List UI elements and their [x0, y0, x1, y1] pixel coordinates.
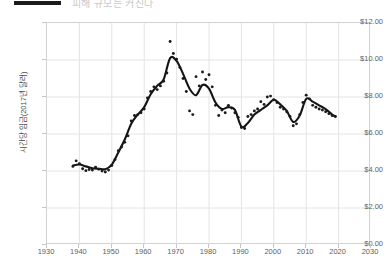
data-point — [263, 103, 266, 106]
x-axis-tick — [78, 244, 79, 248]
data-point — [169, 40, 172, 43]
data-point — [75, 159, 78, 162]
y-axis-tick-label: $10.00 — [341, 54, 383, 63]
data-point — [136, 113, 139, 116]
x-axis-tick — [143, 244, 144, 248]
y-axis-tick-label: $8.00 — [341, 91, 383, 100]
x-axis-tick — [305, 244, 306, 248]
data-point — [130, 120, 133, 123]
data-point — [133, 114, 136, 117]
x-axis-tick — [208, 244, 209, 248]
x-axis-tick — [273, 244, 274, 248]
header-accent-bar — [14, 1, 61, 5]
y-axis-title: 시간당 임금(2017년 달러) — [17, 43, 28, 183]
data-point — [233, 111, 236, 114]
data-point — [81, 167, 84, 170]
data-point — [237, 116, 240, 119]
data-point — [104, 170, 107, 173]
data-point — [149, 90, 152, 93]
y-axis-tick-label: $4.00 — [341, 165, 383, 174]
y-axis-tick — [42, 59, 46, 60]
gridlines — [47, 23, 371, 245]
data-point — [217, 114, 220, 117]
data-point — [88, 168, 91, 171]
data-point — [276, 101, 279, 104]
data-point — [208, 73, 211, 76]
x-axis-tick — [240, 244, 241, 248]
data-point — [114, 158, 117, 161]
data-point — [298, 113, 301, 116]
x-axis-tick-label: 2030 — [350, 247, 388, 256]
data-point — [195, 75, 198, 78]
chart-container: 시간당 임금(2017년 달러) $0.00$2.00$4.00$6.00$8.… — [0, 11, 383, 261]
data-point — [324, 110, 327, 113]
data-point — [259, 100, 262, 103]
x-axis-tick — [111, 244, 112, 248]
data-point — [211, 85, 214, 88]
data-point — [250, 113, 253, 116]
data-point — [295, 122, 298, 125]
data-point — [91, 169, 94, 172]
data-point — [285, 110, 288, 113]
data-point — [272, 98, 275, 101]
data-point — [182, 77, 185, 80]
data-point — [101, 170, 104, 173]
data-point — [279, 106, 282, 109]
y-axis-tick — [42, 96, 46, 97]
data-point — [110, 164, 113, 167]
data-point — [224, 111, 227, 114]
data-point — [165, 72, 168, 75]
y-axis-tick — [42, 22, 46, 23]
data-point — [308, 97, 311, 100]
data-point — [159, 84, 162, 87]
data-point — [204, 78, 207, 81]
y-axis-tick — [42, 170, 46, 171]
data-point — [334, 115, 337, 118]
data-point — [127, 134, 130, 137]
data-point — [314, 106, 317, 109]
y-axis-tick — [42, 133, 46, 134]
data-point — [97, 168, 100, 171]
y-axis-tick-label: $6.00 — [341, 128, 383, 137]
series-layer — [47, 23, 371, 245]
data-point — [327, 112, 330, 115]
x-axis-tick — [338, 244, 339, 248]
data-point — [185, 90, 188, 93]
page-header-strip: 피해 규모는 커진다 — [0, 0, 383, 11]
data-point — [162, 80, 165, 83]
data-point — [107, 169, 110, 172]
data-point — [143, 108, 146, 111]
data-point — [246, 115, 249, 118]
data-point — [221, 109, 224, 112]
y-axis-tick-label: $2.00 — [341, 202, 383, 211]
plot-area — [46, 22, 370, 244]
x-axis-tick — [370, 244, 371, 248]
data-point — [78, 162, 81, 165]
data-point — [318, 108, 321, 111]
data-point — [156, 88, 159, 91]
data-point — [240, 126, 243, 129]
data-point — [227, 104, 230, 107]
data-point — [289, 115, 292, 118]
data-point — [191, 113, 194, 116]
data-point — [71, 165, 74, 168]
data-point — [331, 114, 334, 117]
data-point — [266, 96, 269, 99]
data-point — [94, 166, 97, 169]
data-point — [172, 52, 175, 55]
header-title-clipped: 피해 규모는 커진다 — [72, 0, 154, 10]
data-point — [152, 85, 155, 88]
data-point — [201, 71, 204, 74]
data-point — [175, 58, 178, 61]
data-point — [253, 109, 256, 112]
data-point — [302, 101, 305, 104]
data-point — [321, 109, 324, 112]
y-axis-tick — [42, 207, 46, 208]
data-point — [140, 111, 143, 114]
data-point — [230, 107, 233, 110]
data-point — [120, 146, 123, 149]
x-axis-tick — [46, 244, 47, 248]
data-point — [305, 94, 308, 97]
data-point — [269, 95, 272, 98]
